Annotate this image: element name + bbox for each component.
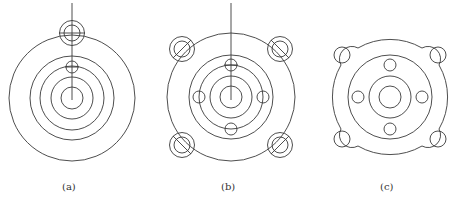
- corner-bolt-hole: [334, 131, 350, 147]
- caption-a: (a): [62, 181, 76, 192]
- caption-c: (c): [380, 181, 393, 192]
- inner-hole: [384, 123, 396, 135]
- figure-b: [167, 3, 295, 161]
- corner-bolt-hole: [430, 131, 446, 147]
- inner-hole: [352, 91, 364, 103]
- center-bore: [379, 86, 401, 108]
- ring-circle: [369, 76, 411, 118]
- corner-bolt-hole: [334, 47, 350, 63]
- figure-c: [332, 39, 447, 154]
- figure-a: [9, 3, 135, 161]
- caption-b: (b): [221, 181, 235, 192]
- ring-circle: [348, 55, 432, 139]
- corner-bolt-hole: [430, 47, 446, 63]
- inner-hole: [416, 91, 428, 103]
- inner-hole: [384, 59, 396, 71]
- diagram-canvas: [0, 0, 460, 204]
